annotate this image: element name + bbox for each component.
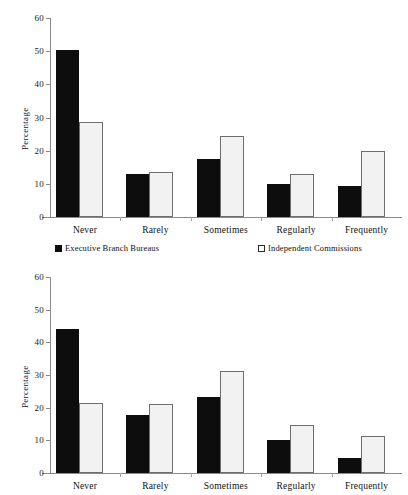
plot-area-bottom: 60 50 40 30 20 10: [50, 277, 402, 473]
bar-group-rarely-bottom: Rarely: [120, 277, 190, 473]
bar-group-never-top: Never: [50, 18, 120, 217]
x-tick-label-never-bottom: Never: [73, 481, 97, 492]
x-tick-label-regularly-bottom: Regularly: [277, 481, 316, 492]
x-axis-line-top: [42, 217, 402, 218]
x-tick-label-sometimes-top: Sometimes: [204, 225, 248, 236]
chart-panel-bottom: Percentage 60 50 40 30 20: [0, 262, 408, 495]
x-tick-label-rarely-bottom: Rarely: [142, 481, 169, 492]
bar-frequently-executive-bottom: [338, 458, 361, 473]
x-tick-label-regularly-top: Regularly: [277, 225, 316, 236]
x-tick-mark-regularly-bottom: [332, 473, 333, 477]
y-axis-title-bottom: Percentage: [20, 366, 30, 408]
bar-never-independent-bottom: [79, 403, 103, 473]
y-tick-label-0-top: 0: [39, 213, 50, 222]
bar-regularly-independent-bottom: [290, 425, 314, 473]
x-tick-mark-rarely-bottom: [191, 473, 192, 477]
x-tick-mark-rarely-top: [191, 217, 192, 221]
bar-group-regularly-top: Regularly: [261, 18, 331, 217]
y-tick-label-40-bottom: 40: [35, 338, 50, 347]
y-tick-label-20-bottom: 20: [35, 403, 50, 412]
x-tick-label-frequently-top: Frequently: [345, 225, 388, 236]
y-tick-label-40-top: 40: [35, 80, 50, 89]
bar-never-executive-bottom: [56, 329, 79, 473]
bar-frequently-independent-bottom: [361, 436, 385, 473]
y-tick-label-50-bottom: 50: [35, 305, 50, 314]
y-axis-title-top: Percentage: [20, 108, 30, 150]
bar-rarely-executive-top: [126, 174, 149, 217]
bar-regularly-executive-top: [267, 184, 290, 217]
bar-frequently-executive-top: [338, 186, 361, 217]
bar-never-executive-top: [56, 50, 79, 217]
x-tick-mark-sometimes-top: [261, 217, 262, 221]
x-tick-mark-sometimes-bottom: [261, 473, 262, 477]
bar-frequently-independent-top: [361, 151, 385, 217]
bar-sometimes-independent-bottom: [220, 371, 244, 473]
y-tick-label-60-top: 60: [35, 14, 50, 23]
x-tick-label-frequently-bottom: Frequently: [345, 481, 388, 492]
y-tick-label-30-bottom: 30: [35, 371, 50, 380]
bar-rarely-independent-bottom: [149, 404, 173, 473]
bar-never-independent-top: [79, 122, 103, 217]
bar-rarely-executive-bottom: [126, 415, 149, 473]
figure-two-panel-bar-charts: Percentage 60 50 40 30 20: [0, 0, 408, 495]
y-tick-label-10-bottom: 10: [35, 436, 50, 445]
chart-legend: Executive Branch Bureaus Independent Com…: [0, 240, 408, 256]
bar-regularly-executive-bottom: [267, 440, 290, 473]
y-tick-label-30-top: 30: [35, 113, 50, 122]
y-tick-label-0-bottom: 0: [39, 469, 50, 478]
legend-swatch-filled-icon: [55, 245, 62, 252]
bar-group-sometimes-top: Sometimes: [191, 18, 261, 217]
y-tick-label-50-top: 50: [35, 47, 50, 56]
x-tick-label-sometimes-bottom: Sometimes: [204, 481, 248, 492]
bar-sometimes-executive-top: [197, 159, 220, 217]
x-tick-mark-never-top: [120, 217, 121, 221]
bar-regularly-independent-top: [290, 174, 314, 217]
bar-group-sometimes-bottom: Sometimes: [191, 277, 261, 473]
x-tick-label-rarely-top: Rarely: [142, 225, 169, 236]
x-axis-line-bottom: [42, 473, 402, 474]
legend-entry-independent-commissions: Independent Commissions: [258, 243, 362, 253]
bar-group-frequently-top: Frequently: [332, 18, 402, 217]
chart-panel-top: Percentage 60 50 40 30 20: [0, 0, 408, 240]
y-tick-label-60-bottom: 60: [35, 273, 50, 282]
bar-sometimes-independent-top: [220, 136, 244, 217]
bar-group-rarely-top: Rarely: [120, 18, 190, 217]
x-tick-mark-never-bottom: [120, 473, 121, 477]
bar-sometimes-executive-bottom: [197, 397, 220, 473]
x-tick-mark-regularly-top: [332, 217, 333, 221]
bar-group-regularly-bottom: Regularly: [261, 277, 331, 473]
y-tick-label-20-top: 20: [35, 146, 50, 155]
bar-rarely-independent-top: [149, 172, 173, 217]
legend-entry-executive-branch-bureaus: Executive Branch Bureaus: [55, 243, 159, 253]
bar-group-frequently-bottom: Frequently: [332, 277, 402, 473]
plot-area-top: 60 50 40 30 20 10: [50, 18, 402, 217]
bar-group-never-bottom: Never: [50, 277, 120, 473]
legend-swatch-outline-icon: [258, 245, 265, 252]
x-tick-label-never-top: Never: [73, 225, 97, 236]
legend-label-independent-commissions: Independent Commissions: [268, 243, 362, 253]
y-tick-label-10-top: 10: [35, 179, 50, 188]
legend-label-executive-branch-bureaus: Executive Branch Bureaus: [65, 243, 159, 253]
